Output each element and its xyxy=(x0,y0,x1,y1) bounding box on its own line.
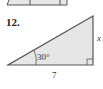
problem-number: 12. xyxy=(6,16,20,28)
angle-label: 30° xyxy=(37,52,50,62)
previous-figure-fragment xyxy=(7,0,67,5)
base-label: 7 xyxy=(52,70,57,80)
right-triangle xyxy=(8,16,93,65)
side-label: x xyxy=(97,33,101,43)
